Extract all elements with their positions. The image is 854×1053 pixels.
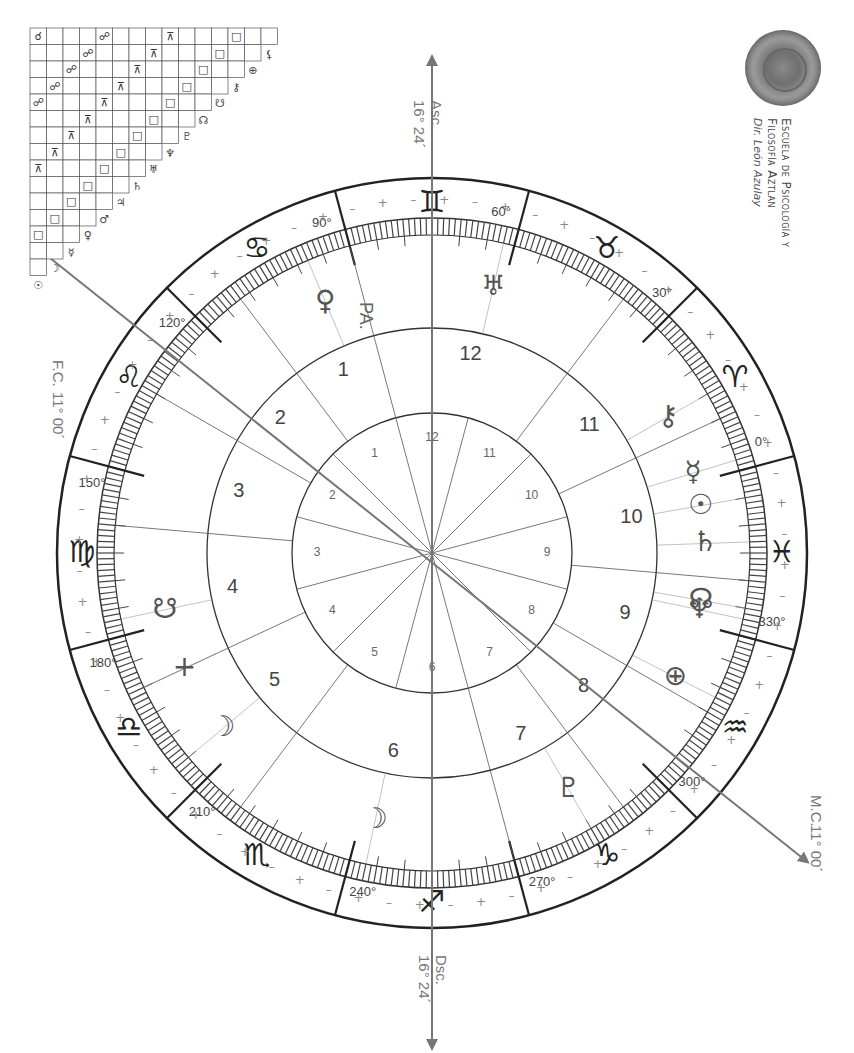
inner-house-number: 2 — [329, 488, 336, 502]
house-cusp — [157, 394, 311, 483]
aspect-cell — [63, 28, 80, 45]
dignity-mark: + — [240, 845, 250, 859]
dignity-mark: – — [532, 208, 538, 222]
aspect-cell — [47, 94, 64, 111]
aspect-cell — [212, 28, 229, 45]
planet-glyph: ☽ — [363, 802, 388, 835]
dignity-mark: – — [269, 860, 275, 874]
inner-spoke — [333, 553, 432, 652]
dignity-mark: – — [782, 527, 788, 541]
house-number: 7 — [515, 722, 526, 744]
aspect-cell — [179, 61, 196, 78]
inner-spoke — [432, 553, 468, 688]
dignity-mark: – — [641, 264, 647, 278]
planet-glyph: ☉ — [688, 488, 713, 521]
aspect-cell — [96, 45, 113, 62]
dignity-mark: + — [739, 380, 749, 394]
house-cusp — [241, 665, 348, 807]
aspect-grid-planet-label: ⚷ — [232, 81, 240, 94]
house-number: 3 — [233, 479, 244, 501]
aspect-grid-planet-label: ☊ — [198, 114, 208, 127]
dignity-mark: + — [663, 283, 673, 297]
dignity-mark: + — [439, 193, 449, 207]
asc-label: Asc. — [428, 100, 445, 129]
aspect-symbol: ⊼ — [117, 80, 125, 93]
dignity-mark: + — [536, 881, 546, 895]
inner-spoke — [333, 454, 432, 553]
house-number: 11 — [579, 413, 600, 435]
aspect-symbol: ☌ — [35, 30, 42, 43]
aspect-cell — [47, 226, 64, 243]
dignity-mark: + — [500, 200, 510, 214]
aspect-cell — [80, 193, 97, 210]
aspect-cell — [30, 193, 47, 210]
dignity-mark: + — [210, 267, 220, 281]
fc-value: 11° 00´ — [50, 392, 67, 439]
dignity-mark: – — [188, 287, 194, 301]
aspect-cell — [195, 94, 212, 111]
aspect-cell — [63, 226, 80, 243]
dignity-mark: – — [508, 889, 514, 903]
dignity-mark: + — [614, 246, 624, 260]
dignity-mark: + — [165, 309, 175, 323]
aspect-symbol: ☍ — [99, 30, 110, 43]
aspect-symbol: ☍ — [33, 96, 44, 109]
natal-chart: ♈0°+–+–+–♉30°+–+–+–♊60°+–+–+–♋90°+–+–+–♌… — [0, 0, 854, 1053]
dignity-mark: + — [128, 358, 138, 372]
house-number: 5 — [269, 668, 280, 690]
dignity-mark: – — [767, 649, 773, 663]
aspect-cell — [80, 61, 97, 78]
aspect-cell — [63, 177, 80, 194]
aspect-cell — [63, 160, 80, 177]
planet-glyph: ☋ — [153, 592, 178, 625]
planet-glyph: + — [173, 650, 196, 683]
aspect-cell — [113, 160, 130, 177]
dignity-mark: – — [711, 758, 717, 772]
aspect-symbol: ⊼ — [133, 63, 141, 76]
dignity-mark: + — [74, 533, 84, 547]
aspect-grid-planet-label: ⚸ — [265, 48, 273, 61]
aspect-cell — [47, 160, 64, 177]
dignity-mark: – — [386, 896, 392, 910]
aspect-cell — [146, 61, 163, 78]
aspect-cell — [179, 28, 196, 45]
aspect-symbol: □ — [149, 113, 159, 126]
aspect-cell — [96, 111, 113, 128]
dignity-mark: – — [754, 408, 760, 422]
aspect-symbol: ⊼ — [100, 96, 108, 109]
aspect-cell — [47, 111, 64, 128]
dignity-mark: + — [772, 619, 782, 633]
aspect-cell — [146, 78, 163, 95]
house-number: 2 — [275, 406, 286, 428]
dignity-mark: – — [687, 305, 693, 319]
dignity-mark: – — [621, 842, 627, 856]
dignity-mark: – — [472, 195, 478, 209]
dignity-mark: + — [82, 472, 92, 486]
dignity-mark: + — [593, 857, 603, 871]
aspect-cell — [113, 94, 130, 111]
aspect-symbol: □ — [215, 47, 225, 60]
dignity-mark: + — [378, 196, 388, 210]
dignity-mark: – — [79, 502, 85, 516]
aspect-cell — [129, 144, 146, 161]
aspect-cell — [162, 45, 179, 62]
aspect-cell — [146, 144, 163, 161]
aspect-cell — [245, 45, 262, 62]
aspect-cell — [162, 61, 179, 78]
aspect-grid-planet-label: ♀ — [84, 229, 92, 242]
aspect-cell — [195, 45, 212, 62]
dignity-mark: + — [644, 824, 654, 838]
aspect-cell — [146, 28, 163, 45]
aspect-cell — [96, 177, 113, 194]
house-cusp — [241, 299, 348, 441]
house-number: 4 — [227, 575, 238, 597]
aspect-cell — [96, 78, 113, 95]
planet-glyph: ☽ — [210, 710, 235, 743]
aspect-symbol: □ — [198, 63, 208, 76]
aspect-cell — [113, 177, 130, 194]
aspect-symbol: ⊼ — [34, 162, 42, 175]
aspect-symbol: ⊼ — [67, 129, 75, 142]
school-name-line2: Filosofía Aztlan — [765, 118, 779, 208]
aspect-cell — [195, 78, 212, 95]
inner-house-number: 7 — [486, 645, 493, 659]
